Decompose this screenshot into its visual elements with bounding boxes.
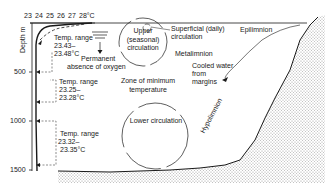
- temp-range-deep-low: 23.32–: [58, 138, 79, 146]
- lower-circulation-label: Lower circulation: [120, 117, 192, 125]
- depth-axis-label: Depth m: [19, 27, 27, 53]
- temp-tick-25: 25: [46, 12, 54, 20]
- temp-tick-28: 28°C: [79, 12, 95, 20]
- temp-range-mid-low: 23.25–: [59, 86, 80, 94]
- min-temp-zone-label-2: temperature: [108, 86, 188, 94]
- lower-circulation-ring: [122, 103, 188, 169]
- epilimnion-label: Epilimnion: [240, 26, 272, 34]
- superficial-circulation-label-2: circulation: [171, 33, 203, 41]
- cooled-water-label-3: margins: [192, 78, 217, 86]
- depth-tick-500: 500: [14, 68, 26, 76]
- depth-tick-1500: 1500: [10, 166, 26, 174]
- cooled-water-label-2: from: [192, 70, 206, 78]
- temp-range-deep-high: 23.35°C: [60, 146, 85, 154]
- temp-range-deep-title: Temp. range: [60, 130, 99, 138]
- upper-circulation-label-3: circulation: [121, 44, 165, 52]
- metalimnion-label: Metalimnion: [175, 50, 213, 58]
- superficial-circulation-label-1: Superficial (daily): [171, 25, 225, 33]
- absence-of-oxygen-label: absence of oxygen: [67, 63, 126, 71]
- temp-range-mid-high: 23.28°C: [59, 94, 84, 102]
- temp-tick-27: 27: [68, 12, 76, 20]
- cooled-water-label-1: Cooled water: [192, 62, 233, 70]
- permanent-label: Permanent: [81, 55, 115, 63]
- temp-tick-23: 23: [24, 12, 32, 20]
- upper-circulation-label-2: (seasonal): [123, 36, 163, 44]
- temp-range-surface-title: Temp. range: [54, 34, 93, 42]
- temp-range-mid-title: Temp. range: [59, 78, 98, 86]
- temp-range-surface-high: 23.48°C: [54, 50, 79, 58]
- min-temp-zone-label-1: Zone of minimum: [108, 77, 188, 85]
- temp-tick-24: 24: [35, 12, 43, 20]
- upper-circulation-label-1: Upper: [123, 27, 163, 35]
- depth-tick-1000: 1000: [10, 117, 26, 125]
- temp-range-surface-low: 23.43–: [54, 42, 75, 50]
- temp-tick-26: 26: [57, 12, 65, 20]
